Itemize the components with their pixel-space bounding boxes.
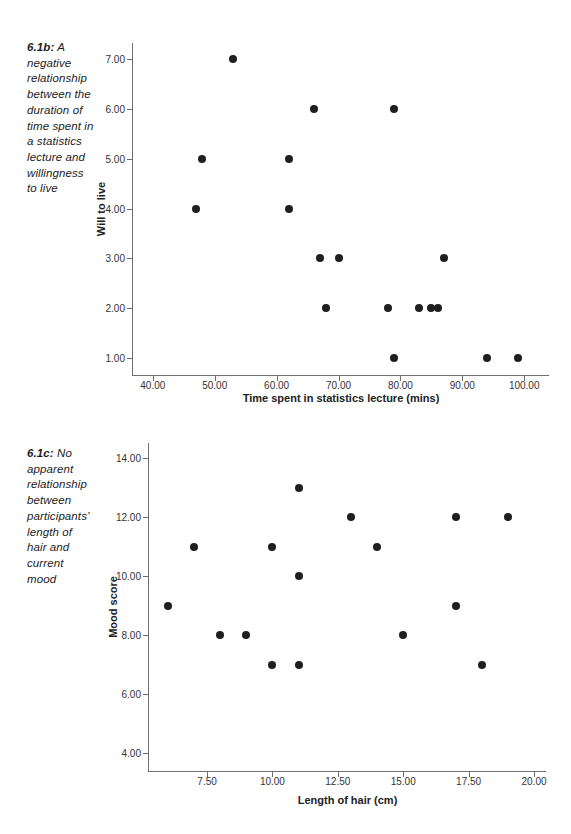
- data-point: [452, 602, 460, 610]
- y-tick-mark: [143, 753, 148, 754]
- caption-line: between: [27, 493, 121, 509]
- caption-line: length of: [27, 525, 121, 541]
- y-tick-label: 14.00: [105, 453, 141, 464]
- y-tick-label: 6.00: [105, 689, 141, 700]
- x-tick-label: 7.50: [197, 776, 216, 787]
- data-point: [268, 661, 276, 669]
- y-tick-mark: [143, 635, 148, 636]
- data-point: [373, 543, 381, 551]
- data-point: [190, 543, 198, 551]
- x-tick-label: 20.00: [521, 776, 546, 787]
- caption-line: apparent: [27, 462, 121, 478]
- data-point: [347, 513, 355, 521]
- y-tick-label: 12.00: [105, 512, 141, 523]
- caption-line: hair and: [27, 540, 121, 556]
- y-tick-mark: [143, 694, 148, 695]
- data-point: [295, 484, 303, 492]
- y-tick-mark: [143, 576, 148, 577]
- x-tick-label: 12.50: [325, 776, 350, 787]
- y-tick-label: 8.00: [105, 630, 141, 641]
- data-point: [295, 572, 303, 580]
- x-tick-label: 15.00: [391, 776, 416, 787]
- figure-number: 6.1c:: [27, 447, 54, 459]
- figure-6-1c: 6.1c: Noapparentrelationshipbetweenparti…: [0, 0, 571, 834]
- caption-line: current: [27, 556, 121, 572]
- x-tick-label: 17.50: [456, 776, 481, 787]
- y-tick-label: 10.00: [105, 571, 141, 582]
- data-point: [504, 513, 512, 521]
- data-point: [295, 661, 303, 669]
- scatter-plot-mood-score: Length of hair (cm) Mood score 7.5010.00…: [148, 443, 546, 772]
- y-tick-mark: [143, 458, 148, 459]
- data-point: [242, 631, 250, 639]
- book-page: 6.1b: Anegativerelationshipbetween thedu…: [0, 0, 571, 834]
- caption-line: relationship: [27, 477, 121, 493]
- x-axis-title: Length of hair (cm): [298, 794, 398, 806]
- y-tick-label: 4.00: [105, 748, 141, 759]
- data-point: [216, 631, 224, 639]
- data-point: [399, 631, 407, 639]
- y-tick-mark: [143, 517, 148, 518]
- x-tick-label: 10.00: [260, 776, 285, 787]
- data-point: [164, 602, 172, 610]
- data-point: [452, 513, 460, 521]
- data-point: [478, 661, 486, 669]
- data-point: [268, 543, 276, 551]
